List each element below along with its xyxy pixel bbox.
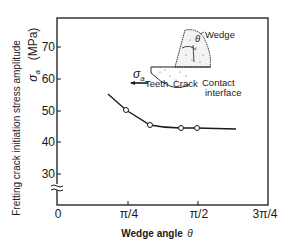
y-axis-unit: σa (MPa) — [26, 28, 42, 82]
svg-text:(MPa): (MPa) — [26, 28, 40, 61]
y-tick-label: 30 — [42, 167, 56, 181]
data-point — [124, 108, 129, 113]
data-point — [179, 126, 184, 131]
x-tick-label: 0 — [55, 207, 62, 221]
inset-interface-label: interface — [205, 87, 241, 98]
chart-canvas: 70 60 50 40 30 0 π/4 π/2 3π/4 Fretting c… — [0, 0, 288, 244]
svg-text:Wedge angle: Wedge angle — [121, 228, 183, 239]
x-ticks: 0 π/4 π/2 3π/4 — [55, 201, 278, 221]
y-tick-label: 40 — [42, 135, 56, 149]
y-tick-label: 60 — [42, 72, 56, 86]
y-axis-break-icon — [51, 184, 63, 191]
inset-theta-label: θ — [195, 33, 201, 44]
plot-frame — [57, 18, 268, 205]
x-tick-label: π/2 — [190, 207, 209, 221]
y-tick-label: 70 — [42, 40, 56, 54]
inset-load-label: σa — [133, 67, 145, 83]
y-tick-label: 50 — [42, 104, 56, 118]
x-tick-label: 3π/4 — [253, 207, 278, 221]
x-tick-label: π/4 — [120, 207, 139, 221]
data-point — [148, 123, 153, 128]
inset-wedge-diagram: θ Wedge Teeth Crack Contact interface σa — [130, 29, 241, 98]
inset-teeth-label: Teeth — [145, 78, 168, 89]
y-ticks: 70 60 50 40 30 — [42, 40, 61, 181]
inset-crack-label: Crack — [173, 78, 198, 89]
data-point — [195, 126, 200, 131]
x-axis-title: Wedge angle θ — [121, 228, 193, 239]
y-axis-title: Fretting crack initiation stress amplitu… — [11, 40, 22, 216]
svg-text:σa: σa — [26, 70, 42, 82]
svg-text:θ: θ — [187, 228, 193, 239]
inset-wedge-label: Wedge — [205, 29, 235, 40]
